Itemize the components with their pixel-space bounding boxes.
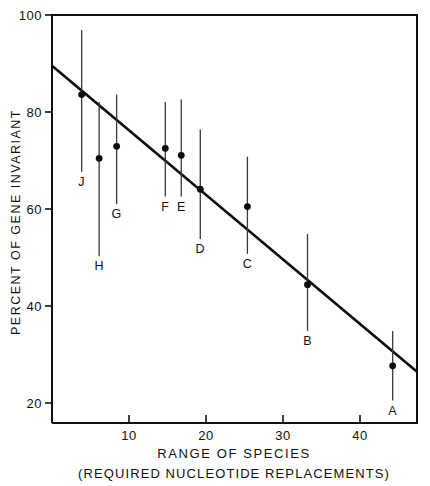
data-point-F[interactable]	[162, 145, 169, 152]
data-point-J[interactable]	[78, 91, 85, 98]
data-point-E[interactable]	[178, 152, 185, 159]
y-tick-label-60: 60	[27, 202, 42, 217]
data-point-label-F: F	[161, 200, 169, 214]
regression-line	[52, 66, 417, 372]
y-tick-label-40: 40	[27, 299, 42, 314]
y-axis-ticks	[45, 15, 52, 403]
x-axis-subtitle: (REQUIRED NUCLEOTIDE REPLACEMENTS)	[78, 466, 390, 481]
data-point-label-C: C	[243, 257, 252, 271]
data-point-label-J: J	[78, 175, 85, 189]
data-series: JHGFEDCBA	[78, 30, 397, 418]
x-axis-tick-labels: 10 20 30 40	[121, 428, 367, 443]
scatter-plot: 100 80 60 40 20 10 20 30 40 JHGFEDCBA RA…	[0, 0, 430, 486]
data-point-A[interactable]	[389, 362, 396, 369]
x-tick-label-30: 30	[275, 428, 290, 443]
x-axis-ticks	[129, 415, 360, 423]
data-point-D[interactable]	[197, 186, 204, 193]
data-point-G[interactable]	[113, 143, 120, 150]
data-point-B[interactable]	[304, 281, 311, 288]
x-tick-label-10: 10	[121, 428, 136, 443]
y-axis-title: PERCENT OF GENE INVARIANT	[9, 109, 23, 335]
x-tick-label-40: 40	[352, 428, 367, 443]
y-tick-label-80: 80	[27, 105, 42, 120]
data-point-H[interactable]	[96, 155, 103, 162]
figure-container: 100 80 60 40 20 10 20 30 40 JHGFEDCBA RA…	[0, 0, 430, 486]
data-point-C[interactable]	[244, 203, 251, 210]
data-point-label-G: G	[112, 207, 122, 221]
data-point-label-B: B	[303, 334, 312, 348]
data-point-label-E: E	[177, 200, 186, 214]
data-point-label-H: H	[94, 259, 103, 273]
y-tick-label-100: 100	[19, 8, 42, 23]
data-point-label-A: A	[388, 404, 397, 418]
x-axis-title: RANGE OF SPECIES	[157, 446, 310, 461]
data-point-label-D: D	[196, 242, 205, 256]
y-tick-label-20: 20	[27, 396, 42, 411]
x-tick-label-20: 20	[198, 428, 213, 443]
